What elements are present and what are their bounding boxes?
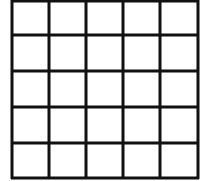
grid-diagram [0,0,206,181]
